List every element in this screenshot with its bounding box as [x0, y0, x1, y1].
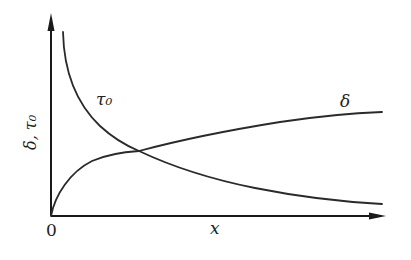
tau-curve [63, 32, 382, 204]
y-axis-label: δ, τ₀ [21, 114, 40, 150]
x-axis-label: x [210, 218, 220, 238]
delta-curve-label: δ [340, 91, 350, 111]
y-axis-arrow-icon [48, 13, 55, 31]
x-axis-arrow-icon [369, 213, 386, 220]
tau-curve-label: τ₀ [96, 89, 112, 109]
origin-label: 0 [46, 220, 57, 240]
chart-figure: τ₀ δ δ, τ₀ 0 x [0, 0, 411, 260]
